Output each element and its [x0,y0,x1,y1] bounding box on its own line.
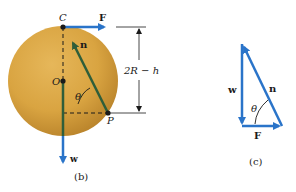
caption-c: (c) [249,156,263,167]
free-body-diagram: C F n O θ P w 2R − h (b) w n θ F (c) [0,0,296,192]
label-o: O [52,76,60,87]
label-c: C [59,12,67,23]
point-c [60,24,65,29]
label-dimension: 2R − h [123,65,159,76]
label-w: w [69,154,78,164]
caption-b: (b) [74,171,88,182]
triangle-normal-vector [244,47,282,126]
triangle-label-w: w [227,84,237,95]
label-theta: θ [75,91,81,102]
figure-b: C F n O θ P w 2R − h (b) [8,12,159,182]
triangle-label-f: F [254,130,261,141]
triangle-label-n: n [269,83,277,94]
point-o [60,78,65,83]
label-n: n [80,39,88,50]
figure-c: w n θ F (c) [227,44,282,167]
triangle-label-theta: θ [251,103,257,114]
label-f: F [99,12,106,23]
label-p: P [106,115,114,126]
